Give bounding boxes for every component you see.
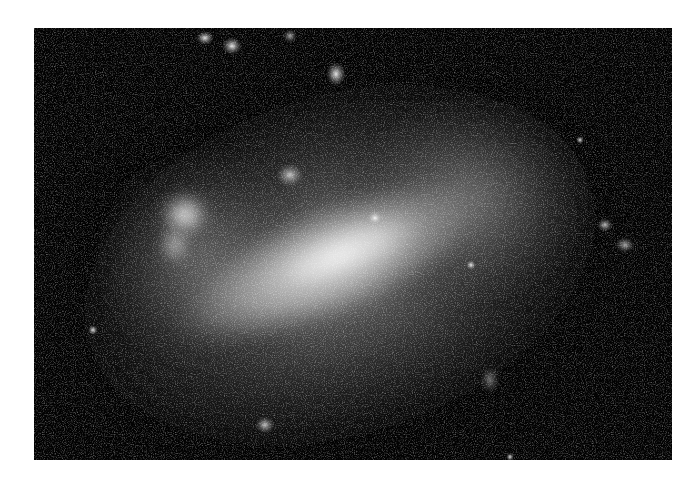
galaxy-image [34, 28, 672, 460]
galaxy-photo [34, 28, 672, 460]
